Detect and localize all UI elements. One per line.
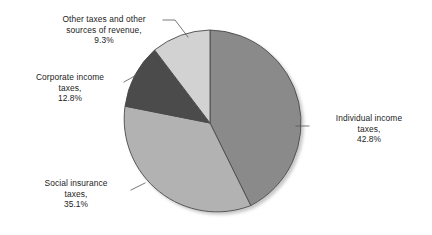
pie-label-individual-income-taxes: Individual income taxes, 42.8% (313, 113, 425, 145)
pie-chart-figure: Other taxes and other sources of revenue… (0, 0, 432, 235)
pie-label-social-insurance-taxes: Social insurance taxes, 35.1% (18, 178, 134, 210)
pie-label-corporate-income-taxes: Corporate income taxes, 12.8% (12, 72, 128, 104)
pie-slices-group (124, 30, 301, 212)
pie-label-other-taxes: Other taxes and other sources of revenue… (42, 14, 166, 46)
